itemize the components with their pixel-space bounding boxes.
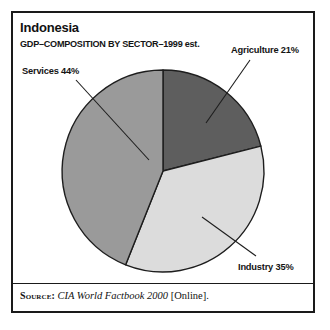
source-note: Source: CIA World Factbook 2000 [Online]… (20, 289, 300, 302)
slice-label-agriculture: Agriculture 21% (231, 45, 299, 55)
title-block: Indonesia GDP–COMPOSITION BY SECTOR–1999… (20, 20, 250, 50)
source-divider (13, 283, 313, 284)
gdp-composition-figure: Indonesia GDP–COMPOSITION BY SECTOR–1999… (0, 0, 330, 330)
source-suffix: [Online]. (171, 290, 209, 301)
slice-label-services: Services 44% (22, 66, 79, 76)
source-label: Source: (20, 290, 55, 301)
source-publication: CIA World Factbook 2000 (58, 290, 169, 301)
chart-subtitle: GDP–COMPOSITION BY SECTOR–1999 est. (20, 38, 250, 50)
slice-label-industry: Industry 35% (238, 262, 293, 272)
page-title: Indonesia (20, 20, 250, 35)
